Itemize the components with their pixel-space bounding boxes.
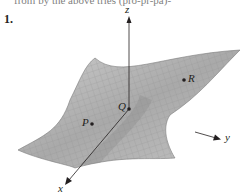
point-r bbox=[182, 78, 186, 82]
z-axis-label: z bbox=[125, 4, 129, 15]
point-q-label: Q bbox=[118, 101, 126, 112]
y-axis-label: y bbox=[225, 132, 230, 143]
y-axis-arrow-icon bbox=[213, 135, 221, 141]
point-r-label: R bbox=[188, 73, 195, 84]
x-axis-label: x bbox=[58, 183, 63, 194]
point-p bbox=[90, 122, 94, 126]
y-axis bbox=[195, 132, 216, 138]
point-q bbox=[127, 107, 131, 111]
z-axis-arrow-icon bbox=[127, 16, 132, 23]
surface-figure bbox=[0, 0, 245, 194]
point-p-label: P bbox=[82, 117, 89, 128]
